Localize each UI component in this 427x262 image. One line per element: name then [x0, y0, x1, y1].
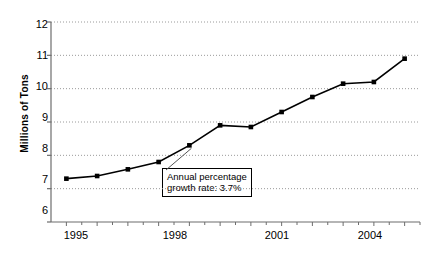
data-point-2000 [218, 123, 223, 128]
data-point-1997 [126, 167, 131, 172]
data-point-2006 [402, 56, 407, 61]
data-point-2002 [279, 110, 284, 115]
plot-area [0, 0, 427, 262]
line-chart: Millions of Tons 12 11 10 9 8 7 6 1995 1… [0, 0, 427, 262]
data-point-2005 [372, 80, 377, 85]
data-point-2003 [310, 95, 315, 100]
data-point-1995 [64, 176, 69, 181]
data-point-2004 [341, 81, 346, 86]
data-point-1996 [95, 174, 100, 179]
data-point-1999 [187, 143, 192, 148]
data-line-millions-of-tons [66, 59, 404, 179]
data-point-1998 [156, 160, 161, 165]
data-point-2001 [249, 125, 254, 130]
